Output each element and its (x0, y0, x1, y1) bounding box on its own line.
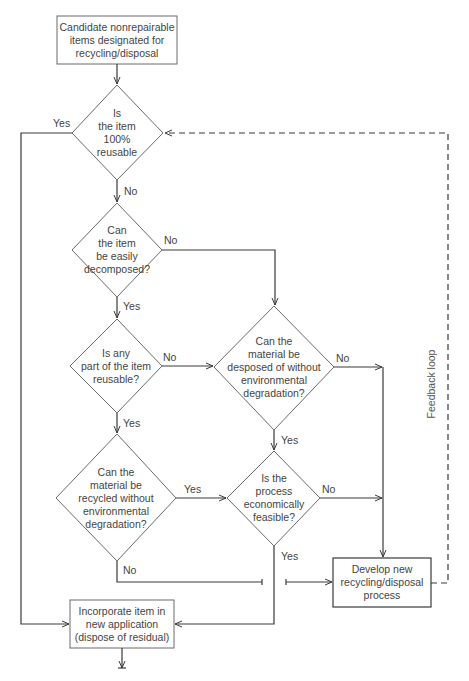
edge-label-economic-yes: Yes (281, 550, 298, 562)
question-decompose: Can the item be easily decomposed? (72, 217, 162, 283)
question-part-reusable: Is any part of the item reusable? (70, 346, 162, 386)
edge-label-part-yes: Yes (123, 417, 140, 429)
edge-label-recycle-no: No (123, 564, 136, 576)
edge-label-economic-no: No (322, 483, 335, 495)
develop-node: Develop new recycling/disposal process (333, 558, 431, 607)
start-node: Candidate nonrepairable items designated… (57, 16, 177, 64)
incorporate-node: Incorporate item in new application (dis… (70, 600, 174, 648)
edge-label-reusable-no: No (124, 185, 137, 197)
edge-label-reusable-yes: Yes (53, 117, 70, 129)
edge-label-dispose-no: No (336, 352, 349, 364)
edge-label-decompose-no: No (164, 234, 177, 246)
edge-label-decompose-yes: Yes (123, 300, 140, 312)
edge-label-dispose-yes: Yes (281, 434, 298, 446)
question-recycle: Can the material be recycled without env… (56, 463, 176, 533)
question-dispose: Can the material be desposed of without … (214, 332, 334, 402)
edge-label-part-no: No (163, 351, 176, 363)
question-reusable: Is the item 100% reusable (77, 100, 157, 166)
edge-label-recycle-yes: Yes (184, 483, 201, 495)
feedback-loop-label: Feedback loop (425, 349, 437, 419)
question-economic: Is the process economically feasible? (227, 470, 321, 526)
